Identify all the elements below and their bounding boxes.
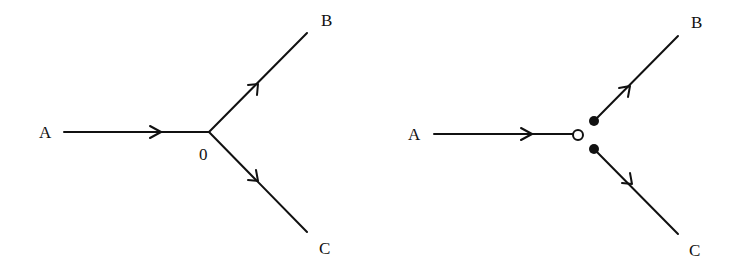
node-label-c: C [689, 241, 700, 260]
edge-dot-to-b [594, 36, 678, 121]
edge-o-to-b [209, 33, 307, 132]
edge-dot-to-c [594, 149, 678, 234]
edge-o-to-c [209, 132, 307, 232]
node-label-a: A [408, 125, 421, 144]
node-label-b: B [321, 11, 332, 30]
left-diagram: A 0 B C [39, 11, 332, 258]
node-label-a: A [39, 123, 52, 142]
diagram-canvas: A 0 B C A B C [0, 0, 734, 268]
node-label-c: C [319, 239, 330, 258]
arrowhead-icon [248, 84, 258, 95]
open-circle-endpoint [573, 130, 583, 140]
diagram-svg: A 0 B C A B C [0, 0, 734, 268]
node-label-b: B [691, 13, 702, 32]
right-diagram: A B C [408, 13, 702, 260]
node-label-o: 0 [199, 145, 208, 164]
